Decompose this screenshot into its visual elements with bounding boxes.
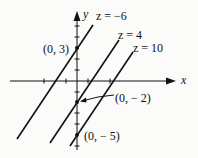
- point-label-0-3: (0, 3): [43, 43, 69, 55]
- x-axis-label: x: [181, 74, 186, 86]
- point-0-3: [75, 46, 79, 50]
- y-axis-label: y: [83, 8, 88, 20]
- callout-arrow: [82, 95, 114, 101]
- point-0-neg5: [75, 133, 79, 137]
- line-label-z-neg6: z = −6: [96, 10, 127, 22]
- x-axis-arrow-icon: [166, 78, 176, 85]
- point-0-neg2: [75, 100, 79, 104]
- callout-arrowhead-icon: [80, 98, 87, 103]
- line-label-z-10: z = 10: [133, 42, 163, 54]
- point-label-0-neg2: (0, − 2): [115, 92, 151, 104]
- y-axis-arrow-icon: [74, 11, 81, 21]
- point-label-0-neg5: (0, − 5): [84, 130, 120, 142]
- line-label-z-4: z = 4: [118, 29, 142, 41]
